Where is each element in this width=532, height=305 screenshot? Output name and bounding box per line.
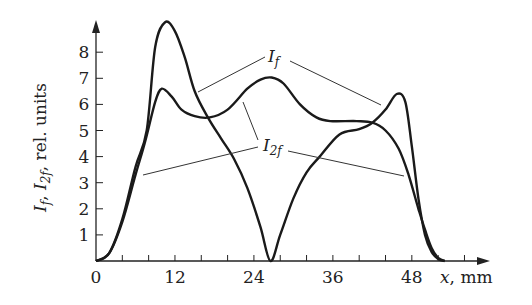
x-tick-label: 48	[401, 267, 423, 287]
x-axis-arrow-icon	[477, 257, 490, 265]
leader-lines	[143, 57, 404, 176]
leader-line	[290, 61, 381, 105]
y-tick-label: 6	[79, 94, 90, 114]
y-tick-label: 7	[79, 68, 90, 88]
curve-I-2f	[96, 77, 445, 261]
chart: 01224364812345678 If, I2f, rel. units x,…	[0, 0, 532, 305]
x-tick-label: 36	[322, 267, 344, 287]
y-axis-label: If, I2f, rel. units	[30, 83, 53, 213]
y-tick-label: 2	[79, 199, 90, 219]
curve-label-If: If	[267, 46, 282, 69]
y-tick-label: 1	[79, 225, 90, 245]
y-axis-arrow-icon	[92, 20, 100, 33]
curve-label-I2f: I2f	[262, 135, 284, 158]
y-tick-label: 8	[79, 42, 90, 62]
y-tick-label: 5	[79, 121, 90, 141]
x-tick-label: 12	[164, 267, 186, 287]
leader-line	[198, 57, 265, 92]
leader-line	[243, 102, 258, 140]
axes	[92, 20, 490, 265]
y-tick-label: 4	[79, 147, 90, 167]
y-tick-label: 3	[79, 173, 90, 193]
x-tick-label: 24	[243, 267, 265, 287]
x-tick-label: 0	[91, 267, 102, 287]
x-axis-label: x, mm	[440, 267, 493, 287]
